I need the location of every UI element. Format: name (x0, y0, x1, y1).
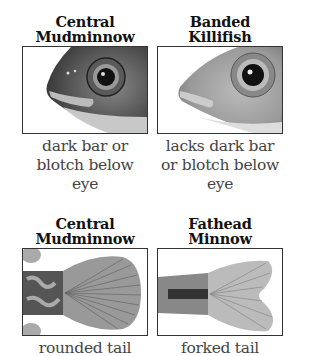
title-line: Banded (157, 14, 283, 29)
panel-caption: forked tail (157, 339, 283, 356)
mudminnow-tail-image (22, 248, 148, 336)
panel-caption: lacks dark bar or blotch below eye (157, 137, 283, 194)
fathead-tail-image (157, 248, 283, 336)
panel-mudminnow-tail: Central Mudminnow rounded tail (22, 216, 148, 356)
caption-line: eye (157, 175, 283, 194)
title-line: Central (22, 14, 148, 29)
mudminnow-head-image (22, 46, 148, 134)
panel-title: Central Mudminnow (22, 216, 148, 246)
title-line: Fathead (157, 216, 283, 231)
panel-title: Banded Killifish (157, 14, 283, 44)
caption-line: rounded tail (22, 339, 148, 356)
caption-line: forked tail (157, 339, 283, 356)
panel-killifish-head: Banded Killifish lacks dark bar or blotc… (157, 14, 283, 194)
caption-line: or blotch below (157, 156, 283, 175)
caption-line: lacks dark bar (157, 137, 283, 156)
panel-caption: rounded tail (22, 339, 148, 356)
killifish-head-image (157, 46, 283, 134)
panel-mudminnow-head: Central Mudminnow dark bar or blotch b (22, 14, 148, 194)
caption-line: eye (22, 175, 148, 194)
panel-fathead-tail: Fathead Minnow forked tail (157, 216, 283, 356)
panel-title: Fathead Minnow (157, 216, 283, 246)
title-line: Mudminnow (22, 231, 148, 246)
caption-line: dark bar or (22, 137, 148, 156)
panel-caption: dark bar or blotch below eye (22, 137, 148, 194)
title-line: Mudminnow (22, 29, 148, 44)
title-line: Minnow (157, 231, 283, 246)
title-line: Central (22, 216, 148, 231)
caption-line: blotch below (22, 156, 148, 175)
panel-title: Central Mudminnow (22, 14, 148, 44)
title-line: Killifish (157, 29, 283, 44)
